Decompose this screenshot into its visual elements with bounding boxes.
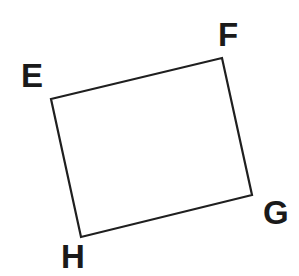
quadrilateral-diagram: E F G H — [0, 0, 299, 276]
quadrilateral-efgh — [51, 58, 252, 237]
vertex-label-f: F — [218, 16, 238, 53]
vertex-label-h: H — [61, 238, 85, 275]
vertex-label-g: G — [263, 194, 289, 231]
vertex-label-e: E — [21, 57, 43, 94]
